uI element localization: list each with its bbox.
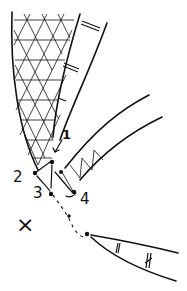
label-point-4: 4 xyxy=(80,192,90,207)
diagram-canvas: 1 2 3 4 × xyxy=(0,0,187,291)
line-1-to-3 xyxy=(51,165,52,188)
dot-midway xyxy=(67,214,71,218)
upper-band-bars xyxy=(58,21,100,101)
lower-band-upper-edge xyxy=(91,235,178,253)
cross-marker: × xyxy=(16,214,34,236)
label-point-1: 1 xyxy=(62,128,71,141)
left-band-inner-edge xyxy=(53,14,80,137)
lower-band-bars xyxy=(116,243,152,268)
dot-band-origin xyxy=(85,232,89,236)
point-3 xyxy=(49,192,53,196)
point-2 xyxy=(33,171,37,175)
triangle-hatching xyxy=(14,14,74,165)
diagram-drawing xyxy=(0,0,187,291)
point-upper-right xyxy=(59,170,63,174)
left-band-outer-edge xyxy=(12,12,38,170)
label-point-3: 3 xyxy=(33,186,43,201)
point-4 xyxy=(72,190,76,194)
point-1 xyxy=(50,160,54,164)
label-point-2: 2 xyxy=(13,170,23,185)
